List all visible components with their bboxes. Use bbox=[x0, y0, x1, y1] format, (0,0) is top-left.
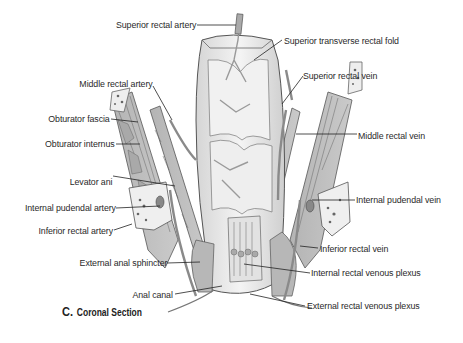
label-obturator-fascia: Obturator fascia bbox=[49, 113, 110, 124]
label-external-rectal-venous-plexus: External rectal venous plexus bbox=[307, 300, 420, 311]
label-internal-pudendal-artery: Internal pudendal artery bbox=[25, 202, 116, 213]
label-superior-rectal-vein: Superior rectal vein bbox=[303, 70, 377, 81]
label-superior-rectal-artery: Superior rectal artery bbox=[116, 19, 196, 30]
label-anal-canal: Anal canal bbox=[133, 289, 173, 300]
label-external-anal-sphincter: External anal sphincter bbox=[79, 257, 167, 268]
right-obturator-muscle bbox=[290, 92, 352, 268]
label-internal-rectal-venous-plexus: Internal rectal venous plexus bbox=[311, 267, 421, 278]
label-levator-ani: Levator ani bbox=[69, 176, 112, 187]
label-inferior-rectal-artery: Inferior rectal artery bbox=[38, 225, 113, 236]
left-obturator-muscle bbox=[112, 92, 178, 268]
label-middle-rectal-vein: Middle rectal vein bbox=[358, 130, 425, 141]
caption-letter: C. bbox=[62, 304, 73, 319]
label-internal-pudendal-vein: Internal pudendal vein bbox=[356, 194, 441, 205]
label-inferior-rectal-vein: Inferior rectal vein bbox=[320, 243, 388, 254]
caption-title: Coronal Section bbox=[77, 307, 142, 318]
label-middle-rectal-artery: Middle rectal artery bbox=[80, 78, 153, 89]
label-obturator-internus: Obturator internus bbox=[46, 138, 115, 149]
label-superior-transverse-rectal-fold: Superior transverse rectal fold bbox=[284, 35, 399, 46]
left-ischium bbox=[129, 182, 172, 230]
rectum-coronal-illustration bbox=[0, 0, 463, 343]
figure-caption: C. Coronal Section bbox=[62, 302, 142, 320]
